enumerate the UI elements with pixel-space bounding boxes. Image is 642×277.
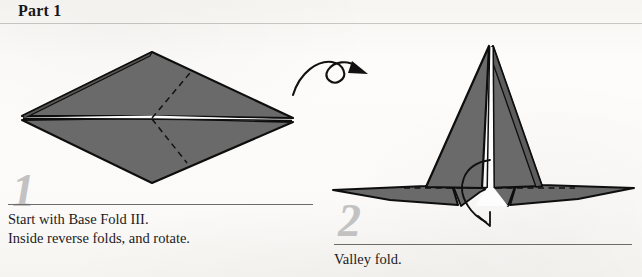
step-1-figure [0,30,320,200]
flat-diamond-diagram [0,30,320,200]
origami-instruction-page: Part 1 [0,0,642,277]
step-1-number: 1 [12,168,35,214]
step-2-number: 2 [338,198,361,244]
spine-edge-right [493,47,494,188]
peak-left-panel [426,46,489,188]
step-2-figure [330,30,642,215]
diamond-upper-face [22,52,293,118]
step-1-divider [8,204,313,205]
header-divider [0,23,642,24]
diamond-lower-face [22,118,293,183]
step-1-caption: Start with Base Fold III. Inside reverse… [8,210,190,249]
page-title: Part 1 [18,2,61,20]
step-2-caption: Valley fold. [334,250,402,269]
step-2-divider [334,244,632,245]
standing-form-diagram [330,30,642,215]
